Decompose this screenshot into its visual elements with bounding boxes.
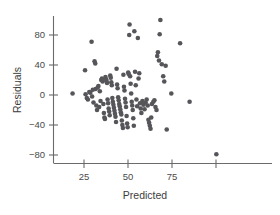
- y-tick-label: 40: [34, 59, 45, 70]
- data-point: [105, 81, 110, 86]
- data-point: [145, 103, 150, 108]
- data-point: [163, 63, 168, 68]
- data-point: [152, 98, 157, 103]
- data-point: [154, 108, 159, 113]
- data-point: [133, 83, 138, 88]
- y-tick-label: 0: [40, 89, 45, 100]
- data-point: [115, 86, 120, 91]
- data-point: [70, 91, 75, 96]
- data-point: [114, 120, 119, 125]
- data-point: [97, 105, 102, 110]
- data-point: [139, 111, 144, 116]
- data-point: [142, 107, 147, 112]
- plot-canvas: 80400−40−80 255075 Residuals Predicted: [0, 0, 280, 215]
- data-point: [214, 152, 219, 157]
- data-point: [102, 111, 107, 116]
- data-point: [132, 29, 137, 34]
- data-point: [128, 81, 133, 86]
- data-point: [119, 112, 124, 117]
- x-tick-label: 50: [123, 171, 134, 182]
- data-point: [164, 127, 169, 132]
- data-point: [148, 126, 153, 131]
- data-point: [157, 58, 162, 63]
- data-point: [133, 69, 138, 74]
- data-point: [114, 66, 119, 71]
- data-point: [161, 74, 166, 79]
- data-point: [103, 117, 108, 122]
- y-axis-title: Residuals: [11, 67, 23, 113]
- y-tick-label: 80: [34, 29, 45, 40]
- data-point: [93, 61, 98, 66]
- data-point: [110, 83, 115, 88]
- data-point: [178, 41, 183, 46]
- data-point: [83, 68, 88, 73]
- data-point: [134, 97, 139, 102]
- data-point: [96, 84, 101, 89]
- data-point: [130, 103, 135, 108]
- data-point: [136, 36, 141, 41]
- data-point: [89, 39, 94, 44]
- data-point: [107, 113, 112, 118]
- data-point: [127, 22, 132, 27]
- y-tick-label: −80: [29, 149, 45, 160]
- data-point: [187, 99, 192, 104]
- data-point: [149, 115, 154, 120]
- data-point: [157, 32, 162, 37]
- x-axis-ticks: 255075: [79, 160, 216, 183]
- x-axis-group: 255075: [54, 160, 273, 183]
- data-points-layer: [70, 18, 218, 157]
- data-point: [120, 118, 125, 123]
- x-tick-label: 75: [167, 171, 178, 182]
- data-point: [122, 88, 127, 93]
- x-tick-label: 25: [79, 171, 90, 182]
- data-point: [108, 75, 113, 80]
- data-point: [113, 114, 118, 119]
- data-point: [90, 94, 95, 99]
- data-point: [132, 123, 137, 128]
- data-point: [86, 97, 91, 102]
- y-tick-label: −40: [29, 119, 45, 130]
- data-point: [121, 72, 126, 77]
- data-point: [130, 108, 135, 113]
- data-point: [158, 18, 163, 23]
- data-point: [137, 71, 142, 76]
- scatter-plot-figure: 80400−40−80 255075 Residuals Predicted: [0, 0, 280, 215]
- data-point: [106, 101, 111, 106]
- data-point: [124, 114, 129, 119]
- data-point: [169, 91, 174, 96]
- data-point: [121, 126, 126, 131]
- data-point: [162, 79, 167, 84]
- data-point: [138, 106, 143, 111]
- x-axis-title: Predicted: [123, 189, 168, 201]
- data-point: [125, 125, 130, 130]
- data-point: [101, 102, 106, 107]
- data-point: [129, 91, 134, 96]
- data-point: [123, 100, 128, 105]
- data-point: [144, 97, 149, 102]
- y-axis-group: 80400−40−80: [29, 16, 58, 163]
- data-point: [127, 33, 132, 38]
- data-point: [98, 89, 103, 94]
- data-point: [128, 74, 133, 79]
- data-point: [124, 105, 129, 110]
- data-point: [156, 50, 161, 55]
- data-point: [136, 76, 141, 81]
- data-point: [131, 116, 136, 121]
